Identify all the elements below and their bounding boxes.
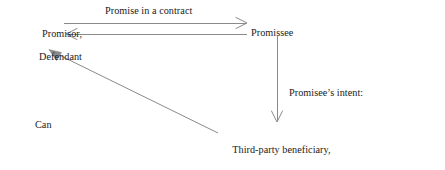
node-promisor-line2: Defendant xyxy=(0,51,82,63)
arrow-intent-flow xyxy=(272,36,283,122)
node-promisee: Promissee xyxy=(251,27,293,39)
node-promisor: Promisor, Defendant xyxy=(0,16,82,85)
intent-list: • Make a gift to third party? • Pay prom… xyxy=(289,132,429,169)
bullet-icon: • xyxy=(290,163,293,169)
question-line-1: Can xyxy=(35,117,109,134)
intent-list-item: • Make a gift to third party? xyxy=(289,163,429,169)
arrow-return-promise xyxy=(66,29,247,40)
promisee-intent-block: Promisee’s intent: • Make a gift to thir… xyxy=(289,54,429,169)
intent-heading: Promisee’s intent: xyxy=(289,85,429,101)
question-line-2: third party xyxy=(35,167,109,170)
edge-label-promise-in-contract: Promise in a contract xyxy=(105,5,192,17)
third-party-beneficiary-diagram: Promise in a contract Promisor, Defendan… xyxy=(0,0,445,169)
arrow-promise-in-contract xyxy=(64,18,247,29)
enforcement-question-block: Can third party enforce above contract p… xyxy=(35,84,109,169)
node-promisor-line1: Promisor, xyxy=(42,28,82,39)
